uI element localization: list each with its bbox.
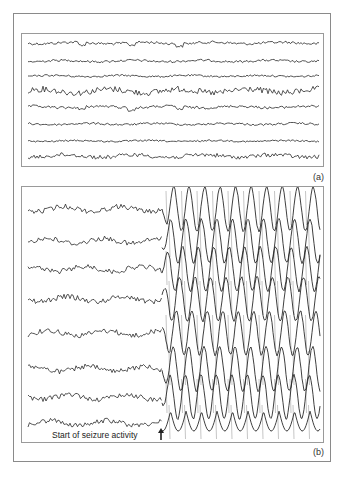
panel-a-label: (a) — [313, 172, 324, 182]
panel-b-label: (b) — [313, 447, 324, 457]
panel-a-normal-eeg — [21, 33, 324, 167]
seizure-onset-label: Start of seizure activity — [52, 430, 138, 440]
up-arrow-icon — [158, 428, 164, 440]
eeg-traces-seizure — [22, 187, 325, 444]
panel-b-seizure-eeg — [21, 186, 324, 443]
eeg-traces-normal — [22, 34, 325, 168]
